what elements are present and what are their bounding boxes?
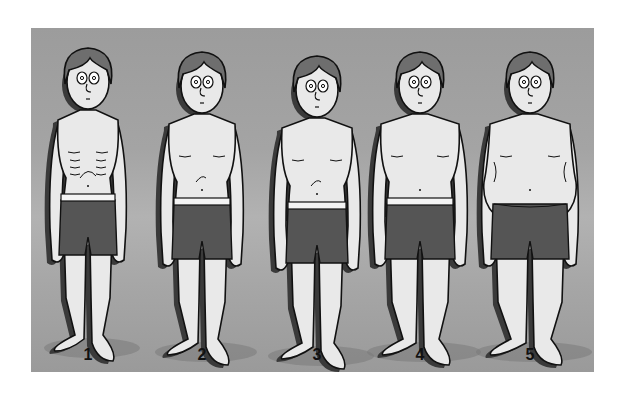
figure-label-1: 1 [73,346,103,364]
figure-label-4: 4 [405,346,435,364]
figure-4 [367,52,481,368]
figure-5 [476,52,592,368]
body-figures [31,28,594,372]
figure-label-3: 3 [302,346,332,364]
figure-3 [268,56,374,372]
figure-label-5: 5 [515,346,545,364]
figure-label-2: 2 [187,346,217,364]
illustration-panel: 1 2 3 4 5 [31,28,594,372]
figure-1 [44,48,140,364]
figure-2 [155,52,257,368]
